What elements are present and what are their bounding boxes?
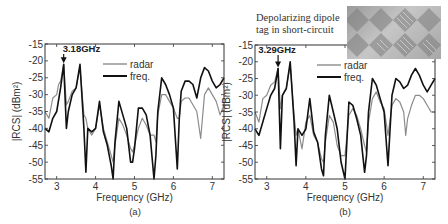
y-tick-label: -50: [239, 157, 254, 168]
legend-radar-label: radar: [344, 60, 368, 71]
y-tick-label: -40: [29, 123, 44, 134]
y-tick-label: -55: [29, 174, 44, 185]
peak-annotation-label: 3.18GHz: [63, 43, 101, 54]
legend-radar-label: radar: [130, 59, 154, 70]
x-tick-label: 6: [381, 181, 387, 192]
y-tick-label: -25: [239, 73, 254, 84]
y-tick-label: -20: [239, 56, 254, 67]
panel-b-caption: (b): [315, 206, 375, 217]
y-tick-label: -15: [239, 40, 254, 51]
y-tick-label: -40: [239, 123, 254, 134]
inset-label-line2: tag in short-circuit: [256, 24, 334, 36]
y-tick-label: -55: [239, 174, 254, 185]
tag-photo-inset: [347, 6, 441, 59]
x-tick-label: 3: [54, 181, 60, 192]
chart-panel-b: -15-20-25-30-35-40-45-50-5534567Frequenc…: [221, 40, 435, 204]
y-tick-label: -45: [239, 140, 254, 151]
y-axis-label: |RCS| (dBm²): [11, 82, 22, 142]
x-tick-label: 4: [93, 181, 99, 192]
y-tick-label: -15: [29, 39, 44, 50]
series-freq-line: [45, 64, 224, 179]
arrow-down-icon: [61, 57, 67, 63]
x-tick-label: 7: [210, 181, 216, 192]
legend-freq-label: freq.: [344, 72, 364, 83]
x-tick-label: 3: [264, 181, 270, 192]
panel-a-caption: (a): [105, 206, 165, 217]
arrow-down-icon: [275, 61, 281, 67]
inset-label-line1: Depolarizing dipole: [256, 12, 340, 24]
chart-panel-a: -15-20-25-30-35-40-45-50-5534567Frequenc…: [11, 39, 224, 204]
x-tick-label: 4: [303, 181, 309, 192]
y-tick-label: -20: [29, 55, 44, 66]
y-axis-label: |RCS| (dBm²): [221, 82, 232, 142]
x-axis-label: Frequency (GHz): [307, 192, 384, 203]
y-tick-label: -35: [29, 106, 44, 117]
peak-annotation-label: 3.29GHz: [258, 44, 296, 55]
x-tick-label: 7: [420, 181, 426, 192]
dipole-tag-array-image: [347, 6, 441, 59]
y-tick-label: -25: [29, 72, 44, 83]
y-tick-label: -50: [29, 157, 44, 168]
y-tick-label: -30: [239, 90, 254, 101]
x-axis-label: Frequency (GHz): [96, 192, 173, 203]
x-tick-label: 6: [171, 181, 177, 192]
x-tick-label: 5: [132, 181, 138, 192]
figure: -15-20-25-30-35-40-45-50-5534567Frequenc…: [0, 0, 448, 224]
y-tick-label: -45: [29, 140, 44, 151]
y-tick-label: -30: [29, 89, 44, 100]
x-tick-label: 5: [342, 181, 348, 192]
legend-freq-label: freq.: [130, 71, 150, 82]
y-tick-label: -35: [239, 107, 254, 118]
